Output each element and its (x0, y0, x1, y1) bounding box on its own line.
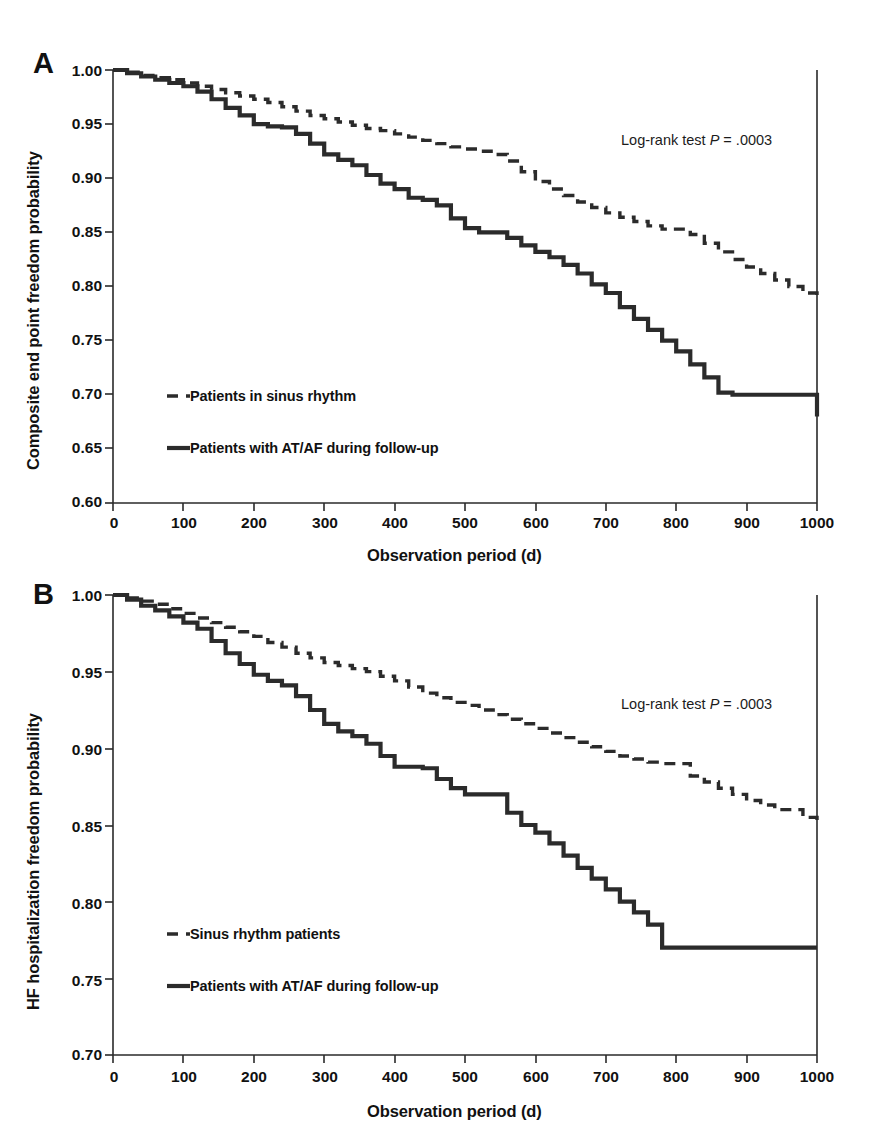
panel-a-plot (0, 0, 875, 563)
panel-a-curve-ataf (113, 70, 817, 416)
panel-b-curve-ataf (113, 595, 817, 948)
panel-b-y-ticks (105, 595, 113, 1055)
panel-b-x-ticks (113, 1055, 817, 1063)
panel-a-x-ticks (113, 503, 817, 511)
panel-b-plot (0, 530, 875, 1126)
panel-a-y-ticks (105, 70, 113, 503)
panel-a: A Composite end point freedom probabilit… (0, 0, 875, 563)
panel-b: B HF hospitalization freedom probability… (0, 530, 875, 1126)
panel-a-curve-sinus-rhythm (113, 70, 817, 301)
figure-kaplan-meier: A Composite end point freedom probabilit… (0, 0, 875, 1126)
